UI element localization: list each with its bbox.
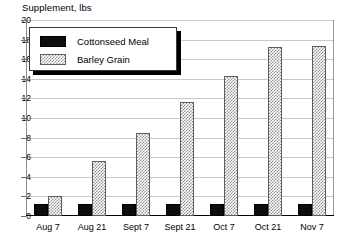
bar-cottonseed-meal: [166, 204, 180, 216]
bar-cottonseed-meal: [298, 204, 312, 216]
bar-barley-grain: [224, 76, 238, 216]
bar-barley-grain: [268, 47, 282, 216]
x-axis-tick-label: Aug 21: [78, 222, 107, 232]
legend-swatch-barley-grain: [40, 54, 66, 65]
bar-barley-grain: [92, 161, 106, 216]
x-axis-tick-label: Oct 21: [255, 222, 282, 232]
bar-cottonseed-meal: [78, 204, 92, 216]
bar-barley-grain: [312, 46, 326, 216]
legend-label-barley-grain: Barley Grain: [77, 54, 130, 65]
bar-chart: Supplement, lbs 02468101214161820 Aug 7A…: [0, 0, 343, 246]
bar-barley-grain: [48, 196, 62, 216]
bar-barley-grain: [136, 133, 150, 216]
chart-title: Supplement, lbs: [22, 2, 92, 13]
x-axis-tick-label: Nov 7: [300, 222, 324, 232]
bar-cottonseed-meal: [122, 204, 136, 216]
bar-barley-grain: [180, 102, 194, 216]
legend-item-barley-grain: Barley Grain: [40, 52, 130, 66]
chart-legend: Cottonseed Meal Barley Grain: [29, 27, 177, 71]
y-axis-tick-mark: [21, 216, 26, 217]
bar-cottonseed-meal: [254, 204, 268, 216]
legend-item-cottonseed-meal: Cottonseed Meal: [40, 34, 149, 48]
x-axis-tick-label: Oct 7: [213, 222, 235, 232]
x-axis-tick-label: Sept 7: [123, 222, 149, 232]
x-axis-tick-label: Sept 21: [164, 222, 195, 232]
bar-cottonseed-meal: [210, 204, 224, 216]
legend-swatch-cottonseed-meal: [40, 36, 66, 47]
legend-label-cottonseed-meal: Cottonseed Meal: [77, 36, 149, 47]
x-axis-tick-label: Aug 7: [36, 222, 60, 232]
bar-cottonseed-meal: [34, 204, 48, 216]
